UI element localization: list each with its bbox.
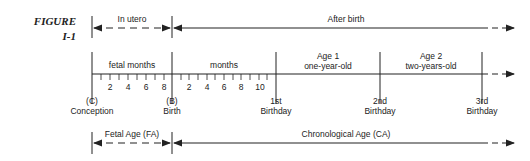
bottom-row: Fetal Age (FA) Chronological Age (CA) (92, 129, 514, 154)
fetal-months-label: fetal months (109, 60, 155, 70)
conception-label: Conception (70, 106, 113, 116)
fetal-tick-4: 4 (126, 82, 131, 92)
birth-code: (B) (166, 96, 178, 106)
month-tick-2: 2 (187, 82, 192, 92)
third-birthday-label: Birthday (466, 106, 498, 116)
age2-title: Age 2 (420, 51, 442, 61)
first-birthday-label: Birthday (260, 106, 292, 116)
month-tick-8: 8 (239, 82, 244, 92)
main-timeline: fetal months months Age 1 one-year-old A… (70, 51, 514, 116)
months-label: months (210, 60, 238, 70)
birth-label: Birth (163, 106, 181, 116)
month-tick-6: 6 (222, 82, 227, 92)
fetal-tick-6: 6 (144, 82, 149, 92)
fetal-tick-8: 8 (162, 82, 167, 92)
second-birthday-ordinal: 2nd (373, 96, 387, 106)
chronological-age-label: Chronological Age (CA) (302, 129, 391, 139)
top-row: In utero After birth (92, 14, 514, 38)
fetal-tick-2: 2 (108, 82, 113, 92)
month-tick-4: 4 (205, 82, 210, 92)
month-tick-10: 10 (255, 82, 265, 92)
third-birthday-ordinal: 3rd (476, 96, 489, 106)
age1-sub: one-year-old (304, 61, 352, 71)
in-utero-label: In utero (118, 14, 147, 24)
first-birthday-ordinal: 1st (270, 96, 282, 106)
age-timeline-diagram: In utero After birth fetal months months (0, 0, 530, 161)
conception-code: (C) (86, 96, 98, 106)
after-birth-label: After birth (328, 14, 365, 24)
age1-title: Age 1 (317, 51, 339, 61)
fetal-age-label: Fetal Age (FA) (105, 129, 159, 139)
age2-sub: two-years-old (405, 61, 456, 71)
second-birthday-label: Birthday (364, 106, 396, 116)
